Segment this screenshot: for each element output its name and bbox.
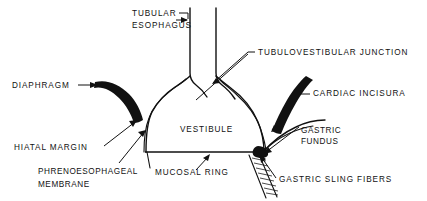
- label-vestibule: VESTIBULE: [180, 125, 233, 134]
- label-gastric-fundus-line1: GASTRIC: [301, 126, 341, 135]
- label-phrenoesophageal-membrane-line2: MEMBRANE: [38, 180, 90, 189]
- label-cardiac-incisura: CARDIAC INCISURA: [313, 89, 406, 98]
- vestibule-right-inner-wall: [220, 80, 266, 152]
- vestibule-right-wall: [216, 76, 264, 152]
- vestibule-left-inner-wall: [144, 79, 186, 152]
- anatomical-diagram-figure: TUBULAR ESOPHAGUS TUBULOVESTIBULAR JUNCT…: [0, 0, 427, 201]
- diagram-canvas: TUBULAR ESOPHAGUS TUBULOVESTIBULAR JUNCT…: [0, 0, 427, 201]
- diaphragm-muscle-left: [94, 81, 143, 123]
- label-gastric-sling-fibers: GASTRIC SLING FIBERS: [279, 175, 392, 184]
- leader-tubulovestibular-junction: [212, 52, 255, 84]
- label-tubular-esophagus-line2: ESOPHAGUS: [132, 21, 192, 30]
- esophagus-left-wall: [190, 8, 207, 97]
- label-phrenoesophageal-membrane-line1: PHRENOESOPHAGEAL: [38, 167, 138, 176]
- label-tubular-esophagus-line1: TUBULAR: [132, 9, 177, 18]
- label-hiatal-margin: HIATAL MARGIN: [14, 143, 88, 152]
- leader-hiatal-margin: [104, 120, 137, 146]
- label-gastric-fundus-line2: FUNDUS: [301, 137, 338, 146]
- leader-junction-secondary: [196, 54, 248, 100]
- label-tubulovestibular-junction: TUBULOVESTIBULAR JUNCTION: [258, 48, 408, 57]
- label-mucosal-ring: MUCOSAL RING: [155, 168, 229, 177]
- leader-phrenoesophageal-membrane: [119, 130, 146, 163]
- label-diaphragm: DIAPHRAGM: [12, 81, 70, 90]
- vestibule-left-wall: [146, 76, 190, 152]
- stomach-left-lower-wall: [147, 152, 150, 168]
